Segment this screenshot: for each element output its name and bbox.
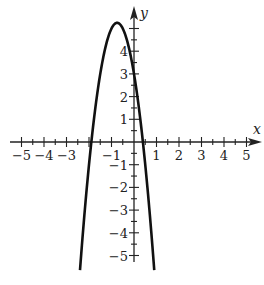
y-tick-label: 1 xyxy=(120,112,128,127)
x-tick-label: 3 xyxy=(197,148,205,163)
x-tick-label: −3 xyxy=(57,148,76,163)
x-tick-label: 4 xyxy=(220,148,228,163)
y-tick-label: −1 xyxy=(109,158,128,173)
y-tick-label: −5 xyxy=(109,249,128,264)
x-tick-label: −4 xyxy=(34,148,53,163)
y-tick-label: 4 xyxy=(120,44,128,59)
y-tick-label: 2 xyxy=(120,90,128,105)
x-tick-label: 2 xyxy=(175,148,183,163)
x-tick-label: 1 xyxy=(152,148,160,163)
x-tick-label: 5 xyxy=(242,148,250,163)
axes xyxy=(10,6,262,262)
x-axis-label: x xyxy=(253,121,261,137)
y-axis-label: y xyxy=(139,5,149,21)
y-tick-label: −3 xyxy=(109,203,128,218)
y-tick-label: −4 xyxy=(109,226,128,241)
y-tick-label: 3 xyxy=(120,67,128,82)
x-tick-label: −5 xyxy=(12,148,31,163)
parabola-graph: −5−4−3−1123454321−1−2−3−4−5 x y xyxy=(0,0,264,285)
y-tick-label: −2 xyxy=(109,180,128,195)
